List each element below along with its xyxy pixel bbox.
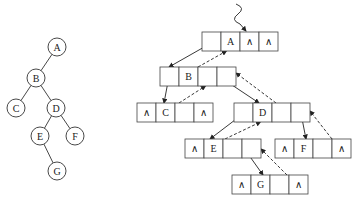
storage-node-C: ∧C∧ [137, 103, 213, 122]
svg-text:E: E [210, 143, 216, 154]
tree-node-B: B [27, 69, 45, 87]
cell-rchild [242, 139, 261, 158]
tree-node-A: A [48, 38, 66, 56]
svg-text:B: B [33, 73, 40, 84]
tree-node-C: C [7, 99, 25, 117]
svg-text:B: B [185, 71, 192, 82]
storage-node-A: A∧∧ [202, 32, 278, 51]
storage-node-F: ∧F∧ [275, 139, 351, 158]
storage-node-E: ∧E [185, 139, 261, 158]
tree-node-F: F [66, 127, 84, 145]
tree-edge-A-B [41, 54, 52, 70]
tree-node-E: E [31, 127, 49, 145]
svg-text:D: D [259, 107, 266, 118]
svg-text:G: G [257, 179, 264, 190]
link-E-parent-D [225, 122, 261, 139]
diagram-canvas: ABCDEFG A∧∧B∧C∧D∧E∧F∧∧G∧ [0, 0, 357, 205]
storage-node-G: ∧G∧ [232, 175, 308, 194]
tree-node-G: G [48, 162, 66, 180]
svg-text:G: G [53, 166, 60, 177]
svg-text:D: D [52, 103, 59, 114]
cell-rchild [217, 67, 236, 86]
cell-lchild [272, 103, 291, 122]
cell-parent [202, 32, 221, 51]
cell-lchild [313, 139, 332, 158]
svg-text:∧: ∧ [281, 143, 288, 154]
link-B-parent-A [198, 51, 227, 67]
svg-text:C: C [162, 107, 169, 118]
link-C-parent-B [179, 86, 206, 103]
tree-nodes: ABCDEFG [7, 38, 84, 180]
svg-text:C: C [13, 103, 20, 114]
link-D-parent-B [236, 73, 276, 103]
svg-text:∧: ∧ [200, 107, 207, 118]
svg-text:A: A [227, 36, 235, 47]
cell-parent [234, 103, 253, 122]
cell-lchild [175, 103, 194, 122]
svg-text:∧: ∧ [338, 143, 345, 154]
svg-text:∧: ∧ [191, 143, 198, 154]
svg-text:∧: ∧ [143, 107, 150, 118]
svg-text:F: F [301, 143, 307, 154]
storage-node-B: B [160, 67, 236, 86]
svg-text:∧: ∧ [265, 36, 272, 47]
svg-text:F: F [72, 131, 78, 142]
root-entry-pointer [234, 4, 246, 31]
svg-text:∧: ∧ [238, 179, 245, 190]
cell-lchild [223, 139, 242, 158]
svg-text:E: E [37, 131, 43, 142]
svg-text:∧: ∧ [246, 36, 253, 47]
tree-edge-E-G [44, 144, 53, 163]
svg-text:∧: ∧ [295, 179, 302, 190]
tree-edge-D-F [61, 115, 70, 128]
tree-edge-B-D [41, 85, 51, 100]
cell-parent [160, 67, 179, 86]
tree-node-D: D [47, 99, 65, 117]
link-E-rchild-G [250, 156, 264, 175]
cell-lchild [270, 175, 289, 194]
tree-edge-D-E [44, 116, 51, 128]
cell-lchild [198, 67, 217, 86]
svg-text:A: A [53, 42, 61, 53]
storage-node-D: D [234, 103, 310, 122]
tree-edge-B-C [21, 85, 31, 100]
cell-rchild [291, 103, 310, 122]
storage-nodes: A∧∧B∧C∧D∧E∧F∧∧G∧ [137, 32, 351, 194]
link-F-parent-D [310, 111, 332, 139]
